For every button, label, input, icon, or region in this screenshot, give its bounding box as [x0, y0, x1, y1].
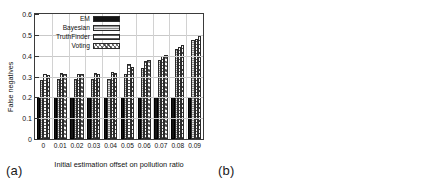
x-tick-mark [77, 135, 78, 139]
bar-voting [97, 74, 100, 139]
subfigure-label-a: (a) [6, 163, 23, 178]
x-tick-mark [178, 135, 179, 139]
y-tick-label: 0.2 [22, 94, 32, 101]
x-tick-mark [94, 135, 95, 139]
grid-line-vertical [52, 14, 53, 139]
x-tick-label: 0 [42, 142, 46, 149]
y-tick-label: 0.1 [22, 115, 32, 122]
subfigure-label-b: (b) [218, 163, 235, 178]
legend-a: EMBayesianTruthFinderVoting [56, 16, 120, 52]
x-tick-label: 0.03 [87, 142, 100, 149]
cross-hatch-swatch [93, 43, 120, 49]
solid-black-swatch [93, 16, 120, 22]
legend-item-voting: Voting [56, 43, 120, 50]
x-tick-mark [127, 135, 128, 139]
x-tick-label: 0.09 [188, 142, 201, 149]
y-tick-label: 0.4 [22, 52, 32, 59]
y-tick-label: 0.6 [22, 11, 32, 18]
legend-item-bayesian: Bayesian [56, 25, 120, 32]
y-tick-label: 0 [28, 136, 32, 143]
x-tick-label: 0.07 [155, 142, 168, 149]
x-tick-mark [111, 135, 112, 139]
x-tick-mark [43, 135, 44, 139]
grid-line-vertical [169, 14, 170, 139]
bar-voting [80, 74, 83, 139]
x-tick-label: 0.04 [104, 142, 117, 149]
legend-item-truthfinder: TruthFinder [56, 34, 120, 41]
legend-item-em: EM [56, 16, 120, 23]
y-tick-label: 0.5 [22, 31, 32, 38]
y-tick-label: 0.3 [22, 73, 32, 80]
y-axis-label-a: False negatives [6, 62, 15, 112]
x-tick-label: 0.01 [54, 142, 67, 149]
y-tick-mark [35, 56, 39, 57]
bar-voting [114, 73, 117, 139]
x-tick-label: 0.05 [121, 142, 134, 149]
grid-line-vertical [136, 14, 137, 139]
bar-voting [47, 75, 50, 139]
y-tick-mark [35, 14, 39, 15]
x-tick-mark [195, 135, 196, 139]
bar-voting [63, 74, 66, 139]
dotted-hatch-swatch [93, 34, 120, 40]
bar-voting [181, 45, 184, 139]
chart-panel-b: False positives 00.010.020.030.040.050.0… [212, 0, 423, 180]
y-tick-mark [35, 139, 39, 140]
gray-hatch-swatch [93, 25, 120, 31]
legend-label: Voting [72, 43, 90, 50]
bar-voting [198, 35, 201, 139]
figure-container: False negatives 00.10.20.30.40.50.600.01… [0, 0, 423, 180]
x-tick-label: 0.08 [171, 142, 184, 149]
x-tick-mark [144, 135, 145, 139]
bar-voting [131, 67, 134, 139]
x-tick-mark [161, 135, 162, 139]
y-tick-mark [35, 77, 39, 78]
bar-voting [147, 60, 150, 139]
x-tick-label: 0.06 [138, 142, 151, 149]
y-tick-mark [35, 118, 39, 119]
legend-label: TruthFinder [56, 34, 90, 41]
y-tick-mark [35, 35, 39, 36]
legend-label: Bayesian [63, 25, 90, 32]
chart-panel-a: False negatives 00.10.20.30.40.50.600.01… [0, 0, 211, 180]
grid-line-vertical [153, 14, 154, 139]
grid-line-vertical [186, 14, 187, 139]
x-tick-mark [60, 135, 61, 139]
y-tick-mark [35, 97, 39, 98]
x-tick-label: 0.02 [71, 142, 84, 149]
x-axis-label-a: Initial estimation offset on pollution r… [34, 160, 204, 169]
legend-label: EM [80, 16, 90, 23]
